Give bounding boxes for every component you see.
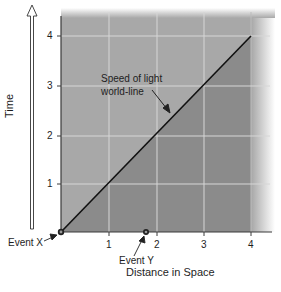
- time-arrow-icon: [27, 5, 37, 229]
- event-y-pointer-arrow-icon: [134, 236, 145, 256]
- right-fade: [251, 16, 275, 232]
- event-x-label: Event X: [8, 238, 43, 248]
- worldline-label-line1: Speed of light: [101, 74, 162, 84]
- top-fade: [61, 8, 275, 18]
- x-axis-label: Distance in Space: [126, 267, 215, 278]
- x-tick-2: 2: [154, 240, 160, 250]
- y-tick-2: 2: [47, 131, 53, 141]
- event-y-label: Event Y: [119, 256, 154, 266]
- y-tick-1: 1: [47, 179, 53, 189]
- event-x-pointer-arrow-icon: [44, 234, 57, 241]
- y-tick-3: 3: [47, 81, 53, 91]
- event-x-marker: [58, 229, 64, 235]
- y-tick-4: 4: [47, 31, 53, 41]
- spacetime-diagram: [0, 0, 281, 292]
- x-tick-1: 1: [106, 240, 112, 250]
- x-tick-3: 3: [201, 240, 207, 250]
- event-y-marker: [143, 229, 149, 235]
- y-axis-label: Time: [3, 94, 15, 118]
- worldline-label-line2: world-line: [101, 87, 144, 97]
- x-tick-4: 4: [248, 240, 254, 250]
